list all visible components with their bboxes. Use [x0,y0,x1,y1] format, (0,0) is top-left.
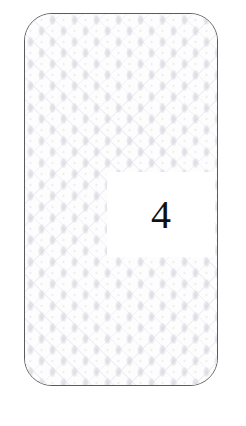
patterned-rounded-card[interactable]: 4 [24,13,218,386]
card-value-panel: 4 [107,172,215,257]
canvas: 4 [0,0,246,426]
card-value-text: 4 [151,195,171,235]
